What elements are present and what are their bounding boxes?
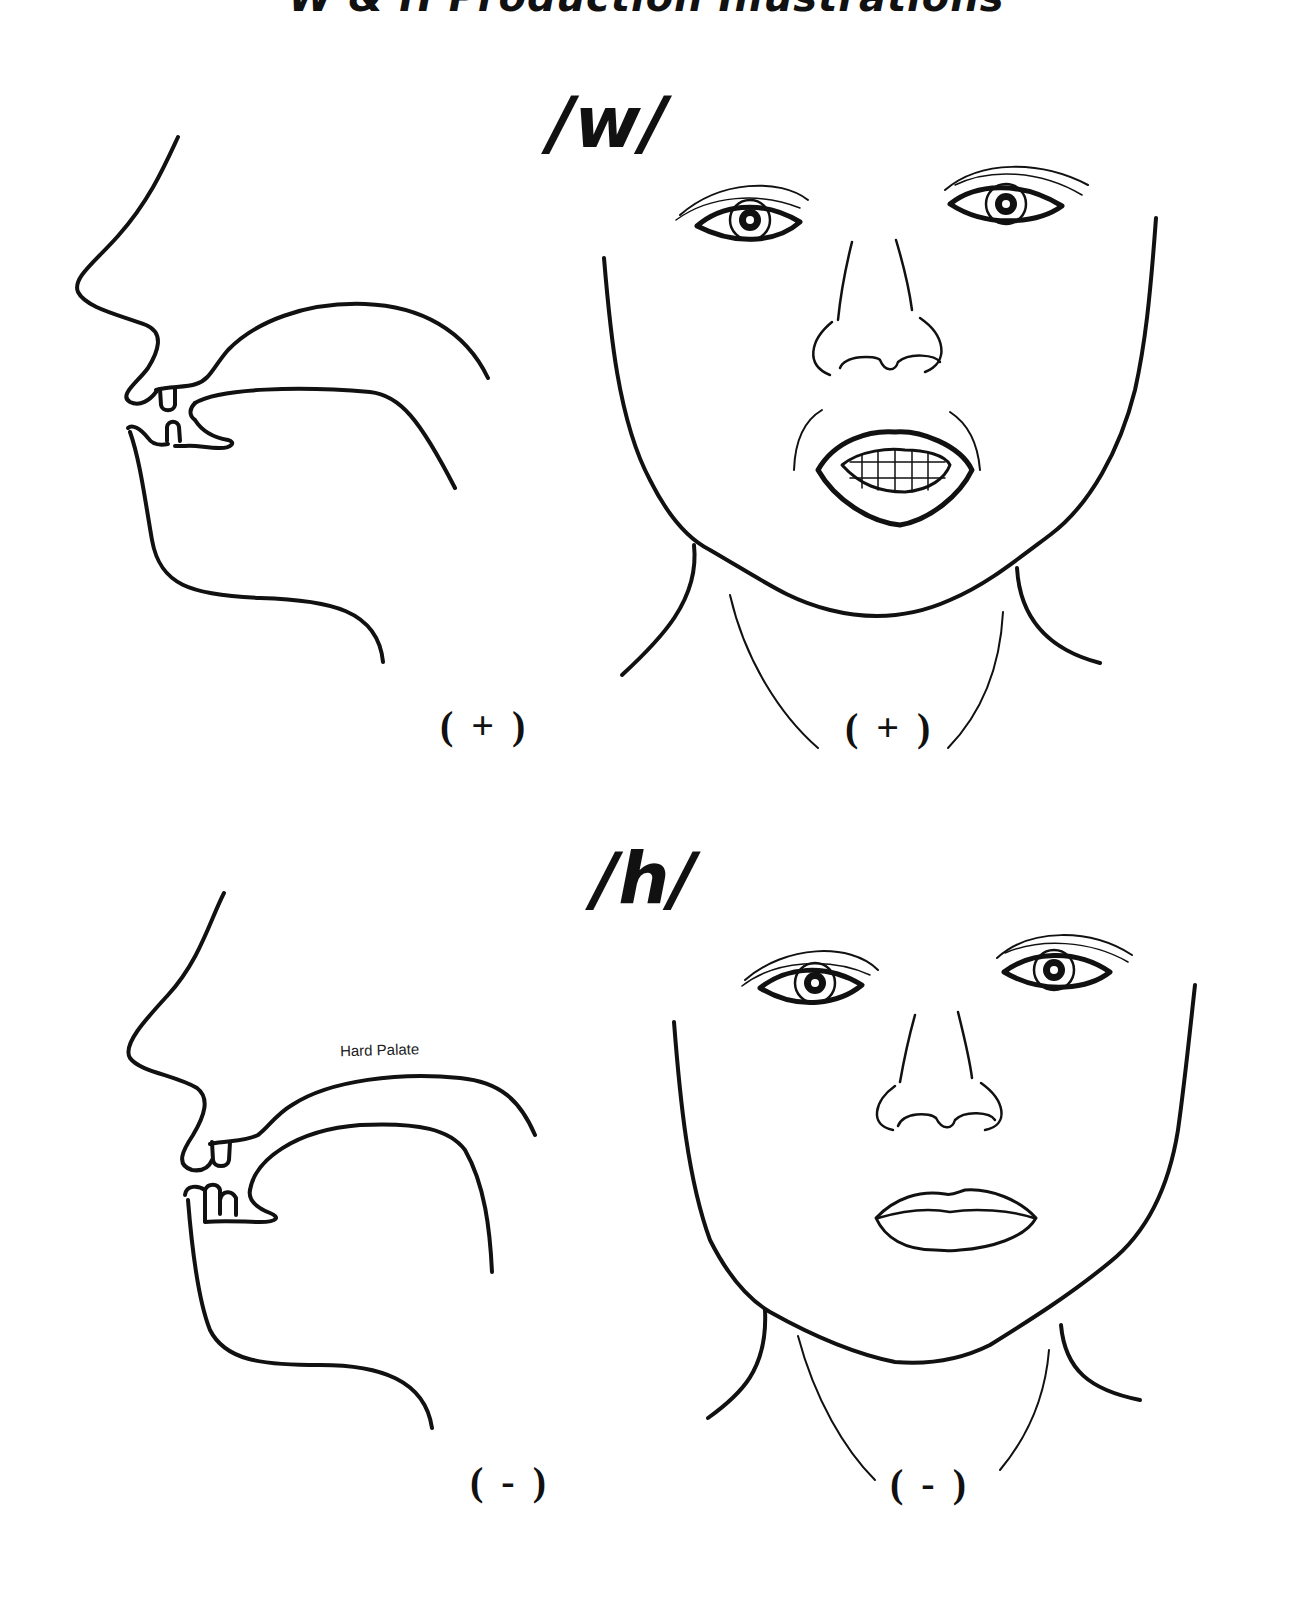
w-front-view-mark: ( + ) [845,708,934,748]
illustrations-canvas: Hard Palate [0,0,1293,1612]
h-front-view-face [674,935,1195,1480]
w-side-view-mark: ( + ) [440,706,529,746]
h-side-view-mark: ( - ) [470,1462,550,1502]
w-front-view-face [604,167,1156,748]
h-front-view-mark: ( - ) [890,1464,970,1504]
w-side-view-diagram [77,137,488,662]
h-side-view-diagram [128,893,535,1428]
hard-palate-label: Hard Palate [340,1040,420,1059]
phoneme-heading-h: /h/ [592,842,696,914]
